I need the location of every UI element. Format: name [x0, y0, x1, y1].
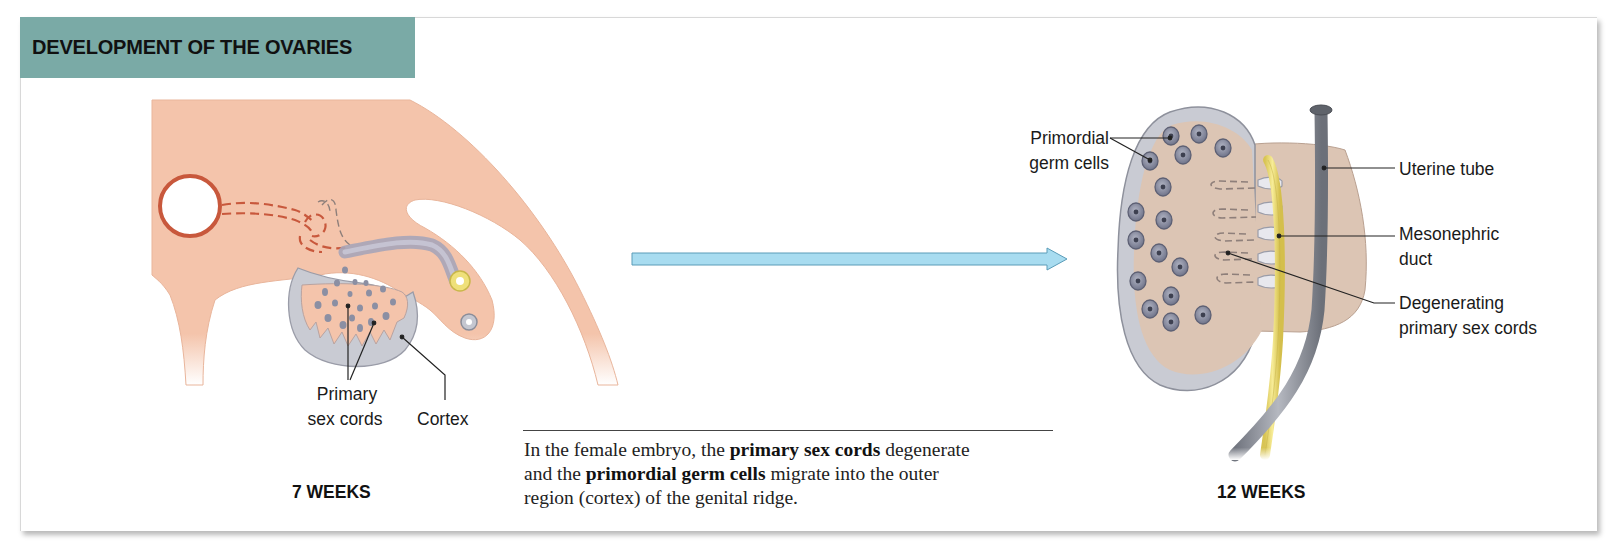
caption-divider [523, 430, 1053, 431]
transition-arrow-icon [632, 248, 1067, 270]
stage-label-7-weeks: 7 WEEKS [292, 482, 371, 503]
term-primary-sex-cords: primary sex cords [730, 439, 881, 460]
embryo-7-weeks-illustration [152, 100, 618, 400]
label-primary-sex-cords: Primary sex cords [307, 382, 387, 432]
caption-text: In the female embryo, the primary sex co… [524, 438, 1064, 510]
stage-label-12-weeks: 12 WEEKS [1217, 482, 1306, 503]
label-mesonephric-duct: Mesonephric duct [1399, 222, 1499, 272]
label-cortex: Cortex [417, 407, 469, 432]
label-uterine-tube: Uterine tube [1399, 157, 1494, 182]
ovary-12-weeks-illustration [1110, 105, 1395, 460]
tube-opening-icon [1310, 105, 1332, 115]
term-primordial-germ-cells: primordial germ cells [586, 463, 766, 484]
aorta-icon [160, 176, 220, 236]
label-primordial-germ-cells: Primordial germ cells [1017, 126, 1109, 176]
label-degenerating-primary-sex-cords: Degenerating primary sex cords [1399, 291, 1537, 341]
